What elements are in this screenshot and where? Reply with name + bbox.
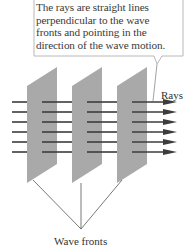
rays-segment-1 [12,102,27,152]
callout-line-4: direction of the wave motion. [36,39,186,52]
callout-text: The rays are straight lines perpendicula… [36,1,186,51]
wave-front-1 [27,67,57,183]
callout-line-3: fronts and pointing in the [36,26,186,39]
callout-pointer-line [153,64,157,101]
wave-fronts-leader-lines [33,180,122,229]
wave-fronts-label: Wave fronts [54,235,107,247]
wave-front-3 [117,67,147,183]
callout-line-2: perpendicular to the wave [36,14,186,27]
arrowhead-icon [163,139,177,145]
arrowhead-icon [163,109,177,115]
arrowhead-icon [163,149,177,155]
arrowhead-icon [163,119,177,125]
wave-front-2 [72,67,102,183]
callout-line-1: The rays are straight lines [36,1,186,14]
ray-arrowheads [163,99,177,155]
arrowhead-icon [163,129,177,135]
rays-label: Rays [161,89,183,101]
